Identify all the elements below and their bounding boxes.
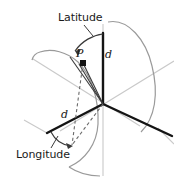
leader-lines-group	[51, 25, 93, 148]
label-latitude: Latitude	[58, 12, 102, 23]
equator-curve-lower	[69, 167, 100, 176]
label-distance-lower: d	[61, 109, 68, 120]
ray-origin-upper-left	[70, 57, 103, 104]
label-longitude: Longitude	[16, 149, 70, 160]
label-distance-upper: d	[105, 49, 112, 60]
radius-rays-group	[70, 57, 103, 104]
light-axis-lower-left-extension	[24, 120, 47, 133]
spherical-coordinates-figure: Latitude Longitude P d d	[0, 0, 174, 180]
label-point-p: P	[76, 48, 83, 59]
axis-down-left	[47, 104, 103, 133]
ray-origin-to-p	[83, 63, 103, 104]
leader-latitude	[84, 25, 93, 36]
axis-down-right	[103, 104, 172, 136]
light-axis-upper-right	[60, 61, 174, 131]
point-p-marker	[80, 60, 86, 66]
